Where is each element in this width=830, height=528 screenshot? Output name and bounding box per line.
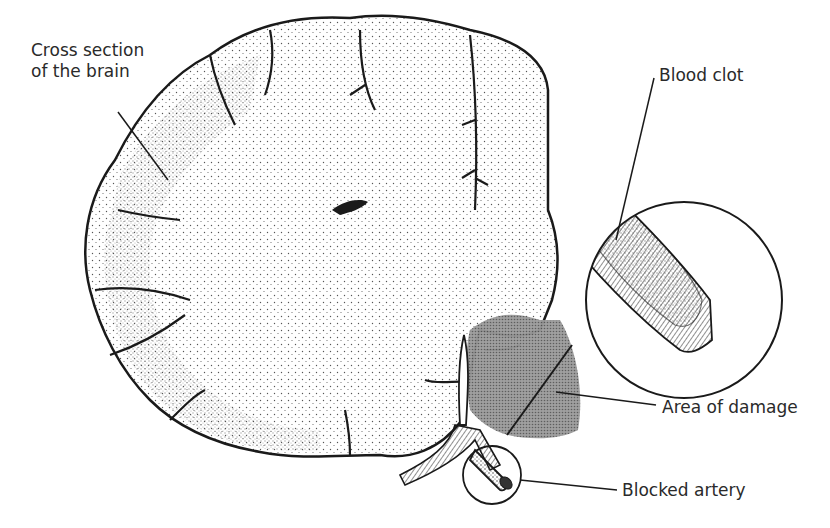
label-cross-section: Cross section of the brain (31, 40, 161, 82)
blood-clot-magnified-view (550, 180, 782, 398)
label-blood-clot: Blood clot (659, 65, 744, 86)
label-area-of-damage: Area of damage (662, 397, 798, 418)
stroke-diagram: Cross section of the brain Blood clot Ar… (0, 0, 830, 528)
damage-area (466, 315, 580, 438)
label-blocked-artery: Blocked artery (622, 480, 746, 501)
